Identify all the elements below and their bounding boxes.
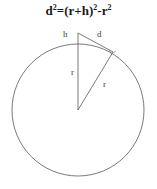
diagonal-radius-line <box>78 52 113 110</box>
label-h: h <box>63 30 68 39</box>
figure-canvas: d2=(r+h)2-r2 h d r r <box>0 0 157 189</box>
geometry-diagram <box>0 0 157 189</box>
tangent-line-d <box>78 33 113 52</box>
label-d: d <box>97 30 102 39</box>
label-r-diagonal: r <box>103 80 106 89</box>
label-r-vertical: r <box>71 68 74 77</box>
